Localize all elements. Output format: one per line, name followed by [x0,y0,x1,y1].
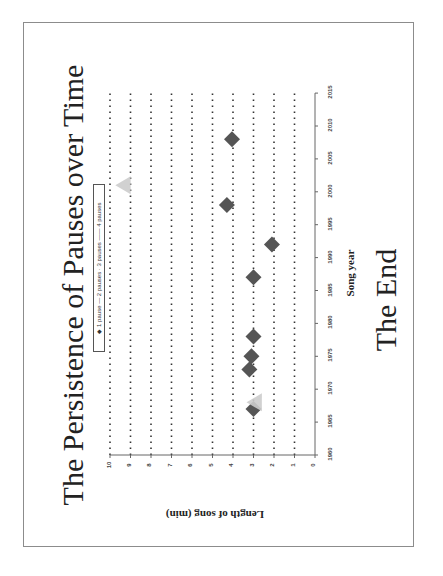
x-tick-label: 1980 [327,316,333,329]
y-tick-label: 3 [248,463,254,466]
x-tick-label: 1965 [327,414,333,427]
chart-legend: ◆ 1 pause — 2 pauses · 3 pauses —— 4 pau… [93,184,105,352]
x-tick-label: 2010 [327,118,333,131]
y-tick-label: 1 [289,463,295,466]
x-tick-label: 2000 [327,184,333,197]
x-tick-label: 2015 [327,85,333,98]
diamond-marker [219,197,235,213]
x-tick-label: 1990 [327,250,333,263]
y-tick-label: 5 [207,463,213,466]
triangle-marker [115,176,130,194]
diamond-marker [241,361,257,377]
diamond-marker [246,269,262,285]
x-tick-label: 1970 [327,382,333,395]
x-tick-label: 1975 [327,349,333,362]
x-tick-label: 2005 [327,151,333,164]
x-tick-label: 1960 [327,447,333,460]
scatter-plot [0,0,443,576]
y-tick-label: 7 [166,463,172,466]
y-tick-label: 9 [125,463,131,466]
y-tick-label: 2 [269,463,275,466]
legend-entries: ◆ 1 pause — 2 pauses · 3 pauses —— 4 pau… [94,185,104,351]
y-tick-label: 10 [106,462,112,469]
diamond-marker [246,329,262,345]
x-tick-label: 1995 [327,217,333,230]
x-tick-label: 1985 [327,283,333,296]
diamond-marker [243,348,259,364]
y-tick-label: 0 [310,463,316,466]
y-tick-label: 8 [146,463,152,466]
diamond-marker [224,131,240,147]
y-tick-label: 6 [187,463,193,466]
y-tick-label: 4 [228,463,234,466]
diamond-marker [264,236,280,252]
